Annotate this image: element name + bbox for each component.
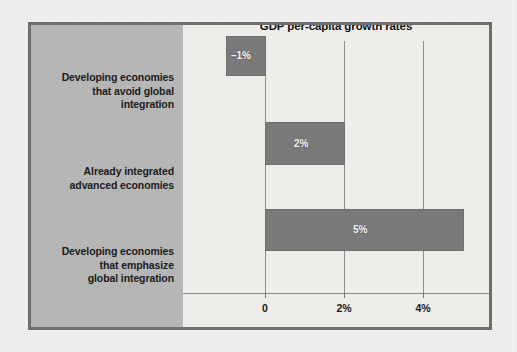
tick-label-2: 2%: [324, 302, 364, 314]
category-label-0-line-1: that avoid global: [36, 85, 174, 99]
bar-value-2: 5%: [353, 224, 367, 235]
category-label-1-line-1: advanced economies: [36, 179, 174, 193]
bar-value-1: 2%: [294, 138, 308, 149]
category-label-0-line-2: integration: [36, 98, 174, 112]
category-label-2-line-0: Developing economies: [36, 245, 174, 259]
tick-label-4: 4%: [403, 302, 443, 314]
category-label-2-line-1: that emphasize: [36, 259, 174, 273]
bar-value-0: –1%: [231, 50, 251, 61]
tick-label-0: 0: [245, 302, 285, 314]
tick-mark-2: [344, 293, 345, 298]
category-label-panel: Developing economies that avoid global i…: [31, 25, 183, 327]
x-axis-line: [183, 293, 489, 294]
chart-figure-frame: Developing economies that avoid global i…: [28, 22, 492, 330]
category-label-2: Developing economies that emphasize glob…: [36, 245, 174, 286]
tick-mark-4: [423, 293, 424, 298]
category-label-0-line-0: Developing economies: [36, 71, 174, 85]
tick-label-6: 6%: [482, 302, 489, 314]
category-label-1: Already integrated advanced economies: [36, 165, 174, 192]
tick-mark-0: [265, 293, 266, 298]
category-label-1-line-0: Already integrated: [36, 165, 174, 179]
plot-area: GDP per-capita growth rates –1% 2% 5% 0 …: [183, 25, 489, 327]
category-label-0: Developing economies that avoid global i…: [36, 71, 174, 112]
gridline-4: [423, 41, 424, 293]
category-label-2-line-2: global integration: [36, 272, 174, 286]
gridline-0: [265, 41, 266, 293]
gridline-2: [344, 41, 345, 293]
chart-title: GDP per-capita growth rates: [183, 25, 489, 32]
